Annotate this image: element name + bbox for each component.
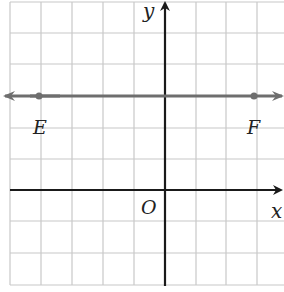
x-axis-label: x: [271, 199, 282, 223]
point-f-label: F: [246, 116, 261, 138]
coordinate-plane: E F O x y: [0, 0, 284, 292]
point-e: [36, 93, 43, 100]
grid-lines: [10, 2, 284, 285]
y-axis-label: y: [142, 0, 155, 23]
point-f: [251, 93, 258, 100]
origin-label: O: [141, 196, 157, 218]
point-e-label: E: [32, 116, 47, 138]
